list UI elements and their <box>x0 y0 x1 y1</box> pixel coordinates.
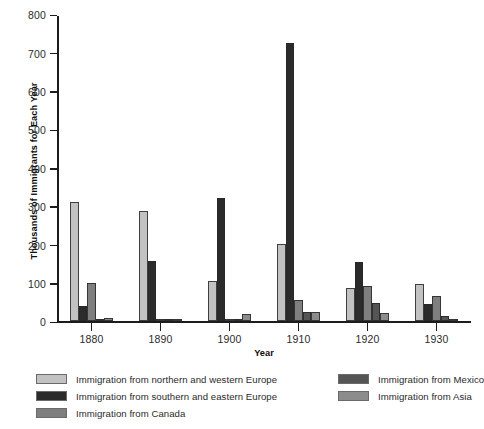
bar <box>363 286 372 321</box>
y-tick-label: 300 <box>28 201 46 213</box>
legend-swatch-icon <box>36 374 67 384</box>
y-tick-300: 300 <box>50 206 57 208</box>
bar <box>208 281 217 321</box>
bar <box>87 283 96 321</box>
bar <box>165 319 174 321</box>
x-tick-1880: 1880 <box>91 323 93 331</box>
bar <box>104 318 113 321</box>
y-tick-label: 400 <box>28 163 46 175</box>
bar <box>79 306 88 321</box>
y-tick-label: 200 <box>28 240 46 252</box>
x-axis-line <box>57 321 471 323</box>
x-tick-label: 1910 <box>286 333 310 345</box>
bar-group-1930 <box>415 14 458 321</box>
x-tick-1930: 1930 <box>436 323 438 331</box>
bar <box>96 319 105 321</box>
y-tick-400: 400 <box>50 168 57 170</box>
legend-item[interactable]: Immigration from Asia <box>338 388 484 405</box>
x-axis-title: Year <box>57 348 471 358</box>
legend-column-left: Immigration from northern and western Eu… <box>36 371 277 422</box>
y-tick-600: 600 <box>50 91 57 93</box>
y-axis-line <box>57 16 59 323</box>
x-tick-1890: 1890 <box>160 323 162 331</box>
x-tick-label: 1900 <box>217 333 241 345</box>
bar <box>380 313 389 321</box>
y-tick-label: 0 <box>40 316 46 328</box>
legend-swatch-icon <box>338 374 369 384</box>
bar <box>441 316 450 321</box>
bar <box>294 300 303 321</box>
bar <box>355 262 364 321</box>
bar-group-1890 <box>139 14 182 321</box>
bar <box>415 284 424 321</box>
y-tick-label: 800 <box>28 9 46 21</box>
x-tick-label: 1930 <box>424 333 448 345</box>
y-tick-label: 600 <box>28 86 46 98</box>
bar <box>242 314 251 322</box>
legend-item[interactable]: Immigration from Mexico <box>338 371 484 388</box>
bar <box>346 288 355 321</box>
legend-item[interactable]: Immigration from Canada <box>36 405 277 422</box>
bar-group-1880 <box>70 14 113 321</box>
bar-group-1910 <box>277 14 320 321</box>
bar <box>303 312 312 322</box>
bar <box>277 244 286 321</box>
bar <box>424 304 433 321</box>
legend-label: Immigration from northern and western Eu… <box>76 374 277 385</box>
legend-item[interactable]: Immigration from southern and eastern Eu… <box>36 388 277 405</box>
y-tick-label: 100 <box>28 278 46 290</box>
y-tick-label: 500 <box>28 124 46 136</box>
y-tick-200: 200 <box>50 245 57 247</box>
x-tick-1920: 1920 <box>367 323 369 331</box>
y-tick-100: 100 <box>50 283 57 285</box>
legend-label: Immigration from Mexico <box>378 374 484 385</box>
legend-label: Immigration from Asia <box>378 391 472 402</box>
y-tick-800: 800 <box>50 15 57 17</box>
bar-group-1920 <box>346 14 389 321</box>
legend-item[interactable]: Immigration from northern and western Eu… <box>36 371 277 388</box>
plot-area: 0100200300400500600700800 18801890190019… <box>57 16 471 323</box>
bar <box>286 43 295 321</box>
legend-swatch-icon <box>36 391 67 401</box>
y-tick-0: 0 <box>50 322 57 324</box>
x-tick-label: 1880 <box>79 333 103 345</box>
bar <box>217 198 226 322</box>
y-tick-500: 500 <box>50 130 57 132</box>
x-tick-label: 1890 <box>148 333 172 345</box>
x-tick-label: 1920 <box>355 333 379 345</box>
bar <box>156 319 165 321</box>
bar <box>234 319 243 321</box>
legend-column-right: Immigration from MexicoImmigration from … <box>338 371 484 405</box>
legend-label: Immigration from Canada <box>76 408 185 419</box>
x-tick-1910: 1910 <box>298 323 300 331</box>
chart-legend: Immigration from northern and western Eu… <box>36 371 476 423</box>
legend-label: Immigration from southern and eastern Eu… <box>76 391 277 402</box>
bar <box>372 303 381 322</box>
bar <box>225 319 234 321</box>
bar <box>148 261 157 322</box>
y-tick-label: 700 <box>28 48 46 60</box>
bar-group-1900 <box>208 14 251 321</box>
bar <box>173 319 182 321</box>
x-tick-1900: 1900 <box>229 323 231 331</box>
bar <box>139 211 148 321</box>
legend-swatch-icon <box>36 408 67 418</box>
bar <box>70 202 79 321</box>
bar <box>311 312 320 322</box>
bar <box>432 296 441 321</box>
bar <box>449 319 458 321</box>
legend-swatch-icon <box>338 391 369 401</box>
y-tick-700: 700 <box>50 53 57 55</box>
